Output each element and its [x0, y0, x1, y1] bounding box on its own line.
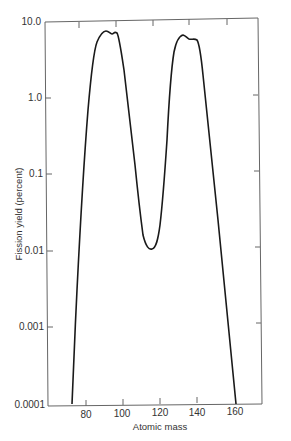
- x-tick-labels: 80 100 120 140 160: [80, 406, 243, 420]
- y-tick-label: 0.0001: [14, 399, 45, 410]
- plot-frame: [45, 18, 262, 406]
- y-tick-label: 1.0: [28, 92, 42, 103]
- x-axis-title: Atomic mass: [133, 421, 188, 432]
- y-tick-label: 10.0: [22, 16, 42, 27]
- x-tick-label: 100: [114, 408, 131, 419]
- x-tick-label: 120: [152, 407, 169, 418]
- y-axis-title: Fission yield (percent): [13, 168, 24, 261]
- fission-yield-chart: 10.0 1.0 0.1 0.01 0.001 0.0001 80 100 12…: [0, 0, 291, 441]
- top-axis-ticks: [79, 19, 227, 28]
- x-tick-label: 160: [227, 406, 244, 417]
- x-tick-label: 80: [80, 409, 92, 420]
- y-tick-label: 0.1: [29, 168, 43, 179]
- x-tick-label: 140: [189, 407, 206, 418]
- y-tick-label: 0.001: [19, 321, 44, 332]
- fission-yield-curve: [72, 31, 236, 404]
- y-tick-label: 0.01: [25, 245, 45, 256]
